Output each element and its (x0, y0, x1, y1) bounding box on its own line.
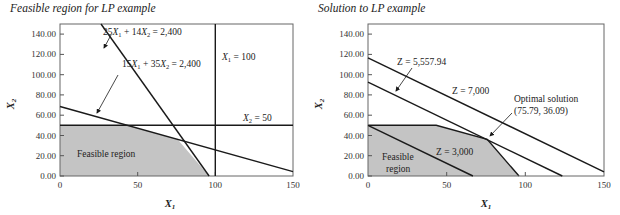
label-z-5557: Z = 5,557.94 (397, 57, 446, 67)
x-axis-title: X1 (164, 198, 176, 211)
annotation-leaders (97, 35, 118, 113)
svg-text:100.00: 100.00 (31, 70, 56, 80)
y-axis-title: X2 (5, 98, 18, 110)
svg-text:140.00: 140.00 (339, 29, 364, 39)
svg-text:120.00: 120.00 (31, 49, 56, 59)
svg-text:40.00: 40.00 (344, 131, 365, 141)
y-tick-labels: 0.00 20.00 40.00 60.00 80.00 100.00 120.… (31, 29, 56, 181)
label-constraint-x1-100: X1 = 100 (221, 52, 256, 63)
svg-text:60.00: 60.00 (36, 110, 57, 120)
svg-text:0.00: 0.00 (40, 171, 56, 181)
svg-text:60.00: 60.00 (344, 110, 365, 120)
x-tick-labels: 0 50 100 150 (58, 180, 301, 190)
svg-text:100: 100 (519, 180, 533, 190)
right-chart: 0.00 20.00 40.00 60.00 80.00 100.00 120.… (313, 24, 611, 211)
svg-text:80.00: 80.00 (344, 90, 365, 100)
y-tick-labels: 0.00 20.00 40.00 60.00 80.00 100.00 120.… (339, 29, 364, 181)
svg-text:50: 50 (133, 180, 143, 190)
svg-text:100: 100 (209, 180, 223, 190)
svg-text:0.00: 0.00 (348, 171, 364, 181)
svg-text:120.00: 120.00 (339, 49, 364, 59)
x-tick-labels: 0 50 100 150 (366, 180, 612, 190)
svg-text:80.00: 80.00 (36, 90, 57, 100)
label-region: region (386, 164, 411, 174)
label-z-3000: Z = 3,000 (436, 147, 474, 157)
label-constraint-x2-50: X2 = 50 (242, 113, 272, 124)
label-feasible: Feasible (382, 152, 414, 162)
label-feasible-region: Feasible region (77, 149, 136, 159)
svg-text:20.00: 20.00 (344, 151, 365, 161)
svg-text:0: 0 (58, 180, 63, 190)
label-constraint-15x1-35x2: 15X1 + 35X2 = 2,400 (122, 59, 201, 70)
charts-canvas: 0.00 20.00 40.00 60.00 80.00 100.00 120.… (0, 0, 620, 215)
svg-text:140.00: 140.00 (31, 29, 56, 39)
label-optimal-solution: Optimal solution (514, 94, 578, 104)
svg-text:150: 150 (286, 180, 300, 190)
svg-text:50: 50 (442, 180, 452, 190)
left-chart: 0.00 20.00 40.00 60.00 80.00 100.00 120.… (5, 24, 300, 211)
svg-text:40.00: 40.00 (36, 131, 57, 141)
x-axis-title: X1 (480, 198, 492, 211)
svg-text:20.00: 20.00 (36, 151, 57, 161)
svg-text:0: 0 (366, 180, 371, 190)
y-axis-title: X2 (313, 98, 326, 110)
label-z-7000: Z = 7,000 (452, 86, 490, 96)
label-constraint-25x1-14x2: 25X1 + 14X2 = 2,400 (103, 27, 182, 38)
svg-text:100.00: 100.00 (339, 70, 364, 80)
svg-text:150: 150 (597, 180, 611, 190)
label-optimal-coordinates: (75.79, 36.09) (514, 106, 568, 117)
